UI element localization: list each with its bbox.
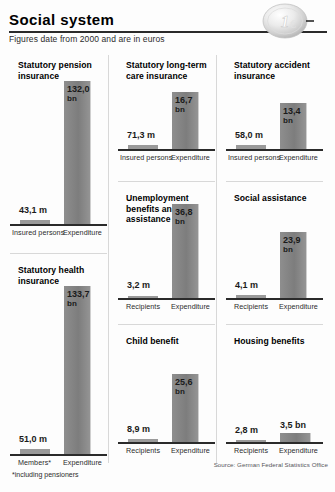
euro-coin-icon: 1 € [262,2,314,44]
bar-value-number: 16,7 [175,95,193,105]
value-insured-persons: 43,1 m [19,205,47,215]
bar-plot: 3,5 bn 2,8 m Recipients Expenditure [226,331,323,463]
panel-statutory-pension-insurance: Statutory pension insurance 132,0 bn 43,… [10,55,107,245]
axis-baseline [118,149,215,151]
panel-unemployment-benefits-and-assistance: Unemployment benefits and assistance 36,… [118,188,215,318]
bar-value-number: 25,6 [175,377,193,387]
panel-social-assistance: Social assistance 23,9 bn 4,1 m Recipien… [226,188,323,318]
bar-value-expenditure: 16,7 bn [175,95,193,115]
bar-value-number: 23,9 [283,235,301,245]
bar-value-expenditure: 23,9 bn [283,235,301,255]
infographic-page: Social system Figures date from 2000 and… [0,0,335,492]
page-subtitle: Figures date from 2000 and are in euros [9,34,165,44]
value-recipients: 4,1 m [235,280,258,290]
bar-value-expenditure: 13,4 bn [283,106,301,126]
value-members: 51,0 m [19,434,47,444]
panel-housing-benefits: Housing benefits 3,5 bn 2,8 m Recipients… [226,331,323,463]
row-divider-middle-col-2 [118,324,215,325]
bar-plot: 132,0 bn 43,1 m Insured persons Expendit… [10,55,107,245]
bar-plot: 133,7 bn 51,0 m Members* Expenditure [10,260,107,465]
bar-value-unit: bn [67,299,90,309]
panel-statutory-health-insurance: Statutory health insurance 133,7 bn 51,0… [10,260,107,465]
value-recipients: 8,9 m [127,424,150,434]
axis-label-insured-persons: Insured persons [120,153,172,162]
bar-value-number: 13,4 [283,106,301,116]
column-divider-left [108,55,109,463]
axis-label-expenditure: Expenditure [171,302,210,311]
bar-value-expenditure: 132,0 bn [67,84,90,104]
axis-label-recipients: Recipients [234,446,268,455]
axis-label-insured-persons: Insured persons [228,153,280,162]
bar-value-number: 3,5 bn [280,420,306,430]
bar-value-unit: bn [175,105,193,115]
axis-label-expenditure: Expenditure [171,153,210,162]
axis-label-expenditure: Expenditure [279,302,318,311]
axis-label-expenditure: Expenditure [63,458,102,467]
axis-label-recipients: Recipients [126,302,160,311]
bar-value-expenditure: 25,6 bn [175,377,193,397]
source-label: Source: German Federal Statistics Office [214,461,328,468]
bar-value-number: 133,7 [67,289,90,299]
bar-plot: 23,9 bn 4,1 m Recipients Expenditure [226,188,323,318]
bar-value-unit: bn [283,116,301,126]
bar-value-unit: bn [175,217,193,227]
bar-expenditure [280,433,311,442]
row-divider-middle-col [118,181,215,182]
axis-label-members: Members* [18,458,51,467]
axis-label-expenditure: Expenditure [279,153,318,162]
bar-value-number: 36,8 [175,207,193,217]
axis-label-recipients: Recipients [234,302,268,311]
column-divider-right [216,55,217,463]
bar-value-unit: bn [175,387,193,397]
bar-value-expenditure: 133,7 bn [67,289,90,309]
bar-value-expenditure: 3,5 bn [280,420,306,430]
axis-label-insured-persons: Insured persons [12,228,64,237]
panel-child-benefit: Child benefit 25,6 bn 8,9 m Recipients E… [118,331,215,463]
value-recipients: 3,2 m [127,280,150,290]
bar-plot: 36,8 bn 3,2 m Recipients Expenditure [118,188,215,318]
bar-value-number: 132,0 [67,84,90,94]
bar-plot: 13,4 bn 58,0 m Insured persons Expenditu… [226,55,323,175]
header: Social system Figures date from 2000 and… [0,0,335,52]
bar-plot: 16,7 bn 71,3 m Insured persons Expenditu… [118,55,215,175]
panel-statutory-long-term-care-insurance: Statutory long-term care insurance 16,7 … [118,55,215,175]
axis-baseline [10,454,107,456]
axis-label-expenditure: Expenditure [171,446,210,455]
bar-expenditure [64,286,91,454]
svg-text:1: 1 [281,12,290,31]
footnote-including-pensioners: *including pensioners [12,471,79,478]
axis-baseline [118,298,215,300]
axis-label-recipients: Recipients [126,446,160,455]
bar-plot: 25,6 bn 8,9 m Recipients Expenditure [118,331,215,463]
row-divider-left-col [10,253,107,254]
value-recipients: 2,8 m [235,425,258,435]
axis-baseline [226,298,323,300]
axis-baseline [226,442,323,444]
bar-value-unit: bn [67,94,90,104]
value-insured-persons: 71,3 m [127,130,155,140]
axis-baseline [226,149,323,151]
panel-statutory-accident-insurance: Statutory accident insurance 13,4 bn 58,… [226,55,323,175]
bar-value-unit: bn [283,245,301,255]
axis-label-expenditure: Expenditure [63,228,102,237]
row-divider-right-col-2 [226,324,323,325]
axis-baseline [118,442,215,444]
value-insured-persons: 58,0 m [235,130,263,140]
axis-label-expenditure: Expenditure [279,446,318,455]
axis-baseline [10,224,107,226]
bar-value-expenditure: 36,8 bn [175,207,193,227]
row-divider-right-col [226,181,323,182]
page-title: Social system [9,11,114,28]
